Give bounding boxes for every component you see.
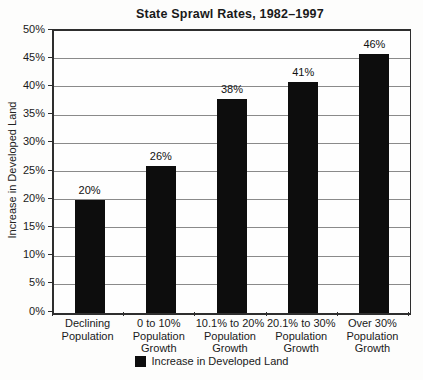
bar-value-label-4: 46% — [339, 38, 410, 50]
xcat-label-2: 10.1% to 20% Population Growth — [194, 317, 265, 355]
ytick-mark-5 — [48, 282, 53, 283]
ytick-mark-35 — [48, 113, 53, 114]
legend: Increase in Developed Land — [0, 355, 423, 367]
ytick-mark-45 — [48, 57, 53, 58]
ytick-label-25: 25% — [0, 164, 45, 177]
xcat-label-1: 0 to 10% Population Growth — [123, 317, 194, 355]
ytick-label-10: 10% — [0, 248, 45, 261]
ytick-label-5: 5% — [0, 276, 45, 289]
ytick-mark-10 — [48, 254, 53, 255]
ytick-label-50: 50% — [0, 23, 45, 36]
ytick-mark-50 — [48, 29, 53, 30]
ytick-label-30: 30% — [0, 135, 45, 148]
bar-value-label-3: 41% — [268, 66, 339, 78]
legend-swatch-icon — [135, 356, 146, 367]
ytick-mark-30 — [48, 141, 53, 142]
bar-4 — [359, 54, 389, 313]
xtick-mark-0 — [52, 312, 53, 316]
gridline-45 — [54, 58, 410, 59]
legend-label: Increase in Developed Land — [152, 355, 289, 367]
ytick-label-45: 45% — [0, 51, 45, 64]
xtick-mark-4 — [337, 312, 338, 316]
ytick-label-0: 0% — [0, 305, 45, 318]
ytick-mark-25 — [48, 170, 53, 171]
ytick-label-15: 15% — [0, 220, 45, 233]
bar-value-label-1: 26% — [125, 150, 196, 162]
xtick-mark-5 — [408, 312, 409, 316]
ytick-mark-15 — [48, 226, 53, 227]
xtick-mark-3 — [266, 312, 267, 316]
ytick-mark-40 — [48, 85, 53, 86]
ytick-label-35: 35% — [0, 107, 45, 120]
bar-1 — [146, 166, 176, 313]
ytick-label-20: 20% — [0, 192, 45, 205]
bar-3 — [288, 82, 318, 313]
xcat-label-4: Over 30% Population Growth — [337, 317, 408, 355]
ytick-label-40: 40% — [0, 79, 45, 92]
chart-title: State Sprawl Rates, 1982–1997 — [52, 7, 408, 21]
bar-value-label-2: 38% — [196, 83, 267, 95]
bar-2 — [217, 99, 247, 313]
bar-value-label-0: 20% — [54, 184, 125, 196]
bar-0 — [75, 200, 105, 313]
xcat-label-3: 20.1% to 30% Population Growth — [266, 317, 337, 355]
xtick-mark-1 — [123, 312, 124, 316]
xcat-label-0: Declining Population — [52, 317, 123, 342]
xtick-mark-2 — [194, 312, 195, 316]
plot-area: 20%26%38%41%46% — [52, 29, 411, 315]
bar-chart: State Sprawl Rates, 1982–1997 Increase i… — [0, 0, 423, 380]
ytick-mark-20 — [48, 198, 53, 199]
